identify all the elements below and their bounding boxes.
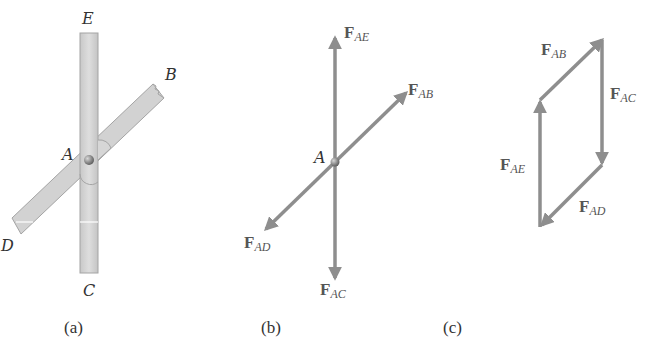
label-d: D <box>0 236 14 255</box>
polygon-label-f-ad: FAD <box>579 197 606 218</box>
panel-c-force-polygon: FAB FAC FAD FAE (c) <box>443 40 637 337</box>
caption-c: (c) <box>443 318 462 337</box>
pin-a <box>84 155 94 165</box>
label-f-ab: FAB <box>408 80 434 101</box>
label-f-ad: FAD <box>244 233 271 254</box>
point-a <box>331 158 340 167</box>
label-b: B <box>164 65 177 84</box>
polygon-label-f-ae: FAE <box>500 155 526 176</box>
caption-a: (a) <box>64 318 83 337</box>
label-e: E <box>81 9 94 28</box>
force-diagram: E B A D C (a) A FAE FAB FAD FAC (b) FAB … <box>0 0 646 360</box>
arrow-f-ad <box>266 162 335 229</box>
label-point-a: A <box>312 148 326 167</box>
panel-b-free-body: A FAE FAB FAD FAC (b) <box>244 23 434 337</box>
polygon-label-f-ab: FAB <box>541 40 567 61</box>
label-f-ae: FAE <box>344 23 370 44</box>
label-a: A <box>60 145 74 164</box>
polygon-label-f-ac: FAC <box>610 84 637 105</box>
caption-b: (b) <box>261 318 281 337</box>
label-c: C <box>83 281 95 300</box>
arrow-f-ab <box>335 93 406 162</box>
label-f-ac: FAC <box>320 280 347 301</box>
vertical-bar-ec <box>80 33 98 273</box>
panel-a-physical-joint: E B A D C (a) <box>0 9 177 337</box>
